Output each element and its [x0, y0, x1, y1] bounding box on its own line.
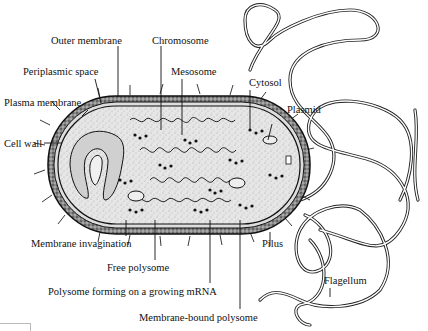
label-flagellum: Flagellum — [324, 275, 367, 287]
label-plasma-membrane: Plasma membrane — [4, 97, 81, 109]
label-membrane-bound-polysome: Membrane-bound polysome — [139, 312, 258, 324]
label-polysome-growing-mrna: Polysome forming on a growing mRNA — [48, 286, 217, 298]
label-pilus: Pilus — [262, 238, 283, 250]
plasmid — [263, 136, 277, 144]
label-plasmid: Plasmid — [287, 104, 321, 116]
label-chromosome: Chromosome — [152, 35, 209, 47]
label-mesosome: Mesosome — [171, 66, 217, 78]
label-free-polysome: Free polysome — [107, 262, 169, 274]
label-membrane-invagination: Membrane invagination — [31, 238, 132, 250]
corner-box — [0, 323, 31, 331]
label-cell-wall: Cell wall — [4, 138, 42, 150]
label-periplasmic-space: Periplasmic space — [23, 66, 99, 78]
inclusion — [128, 191, 144, 201]
flagellum-base — [286, 156, 291, 164]
inclusion — [229, 178, 245, 188]
label-cytosol: Cytosol — [249, 77, 282, 89]
label-outer-membrane: Outer membrane — [51, 35, 122, 47]
